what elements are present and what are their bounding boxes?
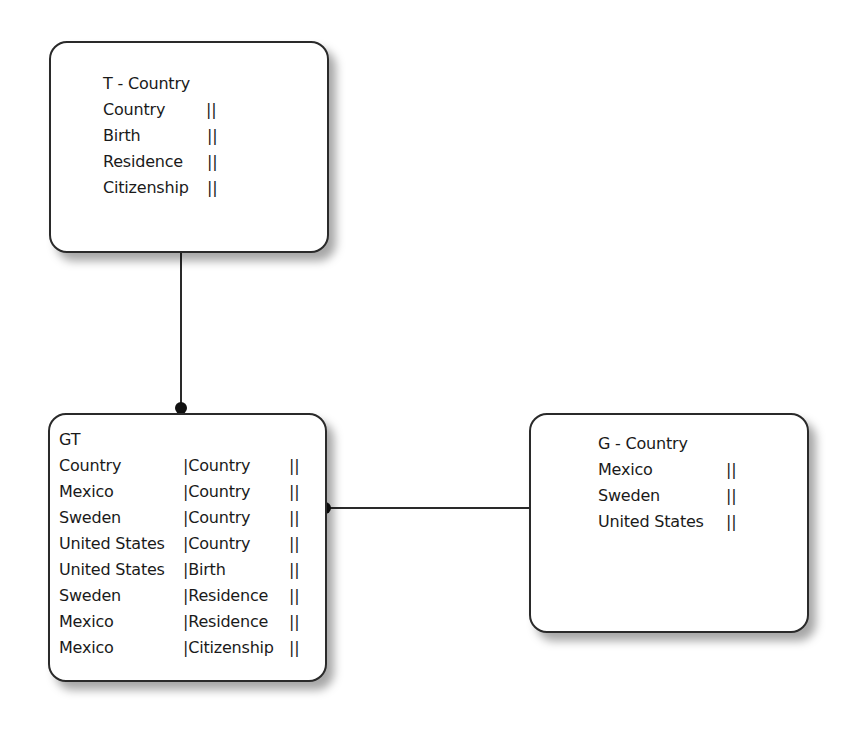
entity-gt[interactable]: GT Country |Country || Mexico |Country |… [48, 413, 327, 682]
row-marker: || [207, 149, 217, 175]
table-row: Mexico |Citizenship || [59, 635, 324, 661]
row-col2: |Residence [183, 583, 268, 609]
entity-row: Residence || [103, 149, 303, 175]
row-col1: Sweden [59, 505, 121, 531]
table-row: Sweden |Country || [59, 505, 324, 531]
row-name: Citizenship [103, 175, 189, 201]
table-row: United States |Country || [59, 531, 324, 557]
row-marker: || [726, 509, 736, 535]
table-row: Mexico |Residence || [59, 609, 324, 635]
row-marker: || [206, 97, 216, 123]
row-marker: || [289, 583, 299, 609]
row-marker: || [289, 635, 299, 661]
row-name: Residence [103, 149, 183, 175]
table-row: United States |Birth || [59, 557, 324, 583]
row-col2: |Birth [183, 557, 226, 583]
entity-title: GT [59, 427, 324, 453]
entity-g-country[interactable]: G - Country Mexico || Sweden || United S… [529, 413, 809, 633]
row-marker: || [726, 483, 736, 509]
row-marker: || [726, 457, 736, 483]
row-col1: United States [59, 531, 165, 557]
entity-row: Citizenship || [103, 175, 303, 201]
entity-t-country[interactable]: T - Country Country || Birth || Residenc… [49, 41, 329, 253]
table-row: Country |Country || [59, 453, 324, 479]
entity-row: Country || [103, 97, 303, 123]
entity-row: Sweden || [598, 483, 798, 509]
connector-t-country-gt [180, 252, 182, 412]
row-col1: Mexico [59, 635, 114, 661]
row-marker: || [289, 531, 299, 557]
table-row: Mexico |Country || [59, 479, 324, 505]
row-col2: |Country [183, 505, 250, 531]
row-name: Mexico [598, 457, 653, 483]
row-col1: Sweden [59, 583, 121, 609]
row-marker: || [289, 609, 299, 635]
row-name: Sweden [598, 483, 660, 509]
row-col1: United States [59, 557, 165, 583]
row-marker: || [207, 123, 217, 149]
row-col2: |Citizenship [183, 635, 274, 661]
table-row: Sweden |Residence || [59, 583, 324, 609]
diagram-canvas: T - Country Country || Birth || Residenc… [0, 0, 865, 745]
row-marker: || [289, 479, 299, 505]
row-marker: || [289, 453, 299, 479]
row-col2: |Residence [183, 609, 268, 635]
entity-title: G - Country [598, 431, 798, 457]
row-marker: || [289, 557, 299, 583]
row-col1: Mexico [59, 479, 114, 505]
row-name: Birth [103, 123, 140, 149]
row-col1: Country [59, 453, 121, 479]
row-name: United States [598, 509, 704, 535]
entity-title: T - Country [103, 71, 303, 97]
row-name: Country [103, 97, 165, 123]
entity-row: Birth || [103, 123, 303, 149]
connector-gt-g-country [326, 507, 530, 509]
row-col2: |Country [183, 453, 250, 479]
entity-row: Mexico || [598, 457, 798, 483]
row-col2: |Country [183, 479, 250, 505]
entity-row: United States || [598, 509, 798, 535]
row-col2: |Country [183, 531, 250, 557]
row-marker: || [207, 175, 217, 201]
row-col1: Mexico [59, 609, 114, 635]
row-marker: || [289, 505, 299, 531]
